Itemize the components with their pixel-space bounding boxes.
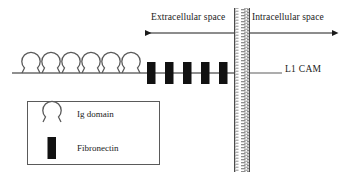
- diagram-canvas: Extracellular space Intracellular space …: [0, 0, 348, 178]
- legend-fibronectin-symbol: [48, 137, 57, 159]
- ig-domain-group: [22, 52, 140, 73]
- fibronectin-block: [165, 62, 174, 84]
- ig-domain-loop: [82, 52, 100, 73]
- fibronectin-block: [201, 62, 210, 84]
- l1-cam-label: L1 CAM: [285, 65, 321, 75]
- intracellular-space-label: Intracellular space: [252, 13, 324, 23]
- legend-label-ig-domain: Ig domain: [77, 110, 114, 119]
- extracellular-space-label: Extracellular space: [151, 13, 225, 23]
- fibronectin-block: [183, 62, 192, 84]
- ig-domain-loop: [62, 52, 80, 73]
- legend-label-fibronectin: Fibronectin: [77, 144, 119, 153]
- ig-domain-loop: [122, 52, 140, 73]
- fibronectin-block: [147, 62, 156, 84]
- ig-domain-loop: [22, 52, 40, 73]
- ig-domain-loop: [42, 52, 60, 73]
- diagram-vector-layer: [0, 0, 348, 178]
- fibronectin-block: [219, 62, 228, 84]
- cell-membrane: [234, 8, 250, 172]
- ig-domain-loop: [102, 52, 120, 73]
- legend-ig-domain-symbol: [43, 101, 61, 122]
